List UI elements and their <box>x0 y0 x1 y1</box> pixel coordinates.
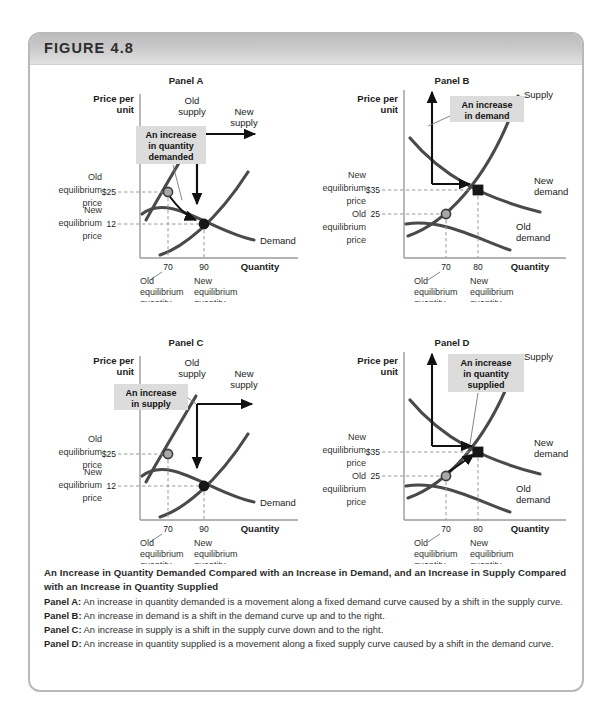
panel-d-new-price-label-1: New <box>348 432 367 442</box>
panel-b-old-demand-label-1: Old <box>516 221 531 232</box>
panel-d-old-demand-label-2: demand <box>516 494 550 505</box>
panel-c-new-supply-label-2: supply <box>230 379 258 390</box>
panel-c-old-qty-label-2: equilibrium <box>140 549 184 559</box>
panel-c-new-qty-label-3: quantity <box>194 560 226 564</box>
panel-d-old-demand-label-1: Old <box>516 483 531 494</box>
panel-d-title: Panel D <box>435 337 470 348</box>
panel-d-x-axis-label: Quantity <box>511 523 550 534</box>
panel-d-old-qty-label-2: equilibrium <box>414 549 458 559</box>
panel-b-callout-line-2: in demand <box>464 111 509 121</box>
caption-panel-d-text: An increase in quantity supplied is a mo… <box>82 638 554 649</box>
panel-b-y-axis-label: Price per <box>357 93 398 104</box>
panel-c-new-qty-label-2: equilibrium <box>194 549 238 559</box>
panel-b-old-price-label-1: Old <box>352 209 366 219</box>
panel-b-new-equilibrium-point <box>473 185 482 194</box>
panel-a-new-qty-label-1: New <box>194 276 213 286</box>
panel-a-callout-line-2: in quantity <box>148 141 194 151</box>
panel-a-title: Panel A <box>169 75 204 86</box>
panel-b-old-qty-label-2: equilibrium <box>414 287 458 297</box>
panel-b-old-qty-label-3: quantity <box>414 298 446 302</box>
caption-panel-a-label: Panel A: <box>44 596 81 607</box>
panel-b-supply-label: Supply <box>524 89 553 100</box>
panel-c-old-equilibrium-point <box>163 449 172 458</box>
panel-d-new-qty-tick: 80 <box>473 524 483 534</box>
panel-d-new-price-label-2: equilibrium <box>322 445 366 455</box>
figure-header-bar: FIGURE 4.8 <box>30 34 582 65</box>
caption-title: An Increase in Quantity Demanded Compare… <box>44 566 568 593</box>
panel-c-new-supply-label-1: New <box>234 368 253 379</box>
panel-b-old-qty-leader <box>428 272 440 280</box>
figure-number-label: FIGURE 4.8 <box>44 40 134 56</box>
panel-b-new-demand-curve <box>410 138 540 212</box>
panel-d-new-equilibrium-point <box>473 447 482 456</box>
panel-b-new-qty-tick: 80 <box>473 262 483 272</box>
panel-c-y-axis-label-2: unit <box>117 366 135 377</box>
panel-b-old-qty-tick: 70 <box>441 262 451 272</box>
panel-c-callout-line-1: An increase <box>125 388 176 398</box>
panel-a-old-qty-tick: 70 <box>163 262 173 272</box>
panel-b-new-price-label-3: price <box>346 196 366 206</box>
panel-b-old-demand-label-2: demand <box>516 232 550 243</box>
panel-d-old-price-tick: 25 <box>371 471 381 481</box>
panel-a-callout-line-3: demanded <box>148 152 193 162</box>
panel-a-old-equilibrium-point <box>163 187 172 196</box>
panel-b-new-demand-label-1: New <box>534 175 553 186</box>
panel-c-old-supply-label-1: Old <box>185 357 200 368</box>
panel-b-new-qty-label-2: equilibrium <box>470 287 514 297</box>
panel-a-old-price-label-2: equilibrium <box>58 185 102 195</box>
caption-panel-b-label: Panel B: <box>44 610 82 621</box>
panel-a-new-price-label-2: equilibrium <box>58 218 102 228</box>
panel-a-old-qty-label-2: equilibrium <box>140 287 184 297</box>
panel-d-supply-label: Supply <box>524 351 553 362</box>
panel-b-old-price-tick: 25 <box>371 209 381 219</box>
panel-a-x-axis-label: Quantity <box>241 261 280 272</box>
panel-d-old-demand-curve <box>406 485 510 512</box>
caption-line-c: Panel C: An increase in supply is a shif… <box>44 623 568 637</box>
panel-a-y-axis-label: Price per <box>93 93 134 104</box>
caption-panel-c-text: An increase in supply is a shift in the … <box>82 624 384 635</box>
figure-container: FIGURE 4.8 Panel A Price per unit Old su… <box>28 32 584 692</box>
caption-line-b: Panel B: An increase in demand is a shif… <box>44 609 568 623</box>
panel-d-old-qty-label-1: Old <box>414 538 428 548</box>
panel-a-old-qty-label-3: quantity <box>140 298 172 302</box>
panel-b-new-price-tick: $35 <box>366 185 380 195</box>
panel-d-new-demand-label-1: New <box>534 437 553 448</box>
panel-c-new-equilibrium-point <box>199 481 208 490</box>
panel-d-old-price-label-2: equilibrium <box>322 484 366 494</box>
panel-c-demand-label: Demand <box>260 497 296 508</box>
panel-b-new-price-label-2: equilibrium <box>322 183 366 193</box>
panel-b-new-demand-label-2: demand <box>534 186 568 197</box>
panel-a-new-qty-tick: 90 <box>199 262 209 272</box>
panel-d-y-axis-label-2: unit <box>381 366 399 377</box>
panel-a-new-supply-label-1: New <box>234 106 253 117</box>
panel-b-new-qty-label-3: quantity <box>470 298 502 302</box>
panel-b-old-equilibrium-point <box>441 209 450 218</box>
figure-caption: An Increase in Quantity Demanded Compare… <box>44 566 568 651</box>
panel-a-new-qty-label-2: equilibrium <box>194 287 238 297</box>
panel-d-new-qty-label-2: equilibrium <box>470 549 514 559</box>
panel-a-callout-line-1: An increase <box>145 130 196 140</box>
panel-c: Panel C Price per unit Old supply New su… <box>36 334 308 564</box>
panel-c-old-price-tick: $25 <box>102 449 116 459</box>
panel-c-old-qty-label-3: quantity <box>140 560 172 564</box>
panel-b-title: Panel B <box>435 75 470 86</box>
panel-a: Panel A Price per unit Old supply New su… <box>36 72 308 302</box>
panel-c-new-price-tick: 12 <box>107 481 117 491</box>
caption-line-a: Panel A: An increase in quantity demande… <box>44 595 568 609</box>
panel-c-y-axis-label: Price per <box>93 355 134 366</box>
panel-c-old-qty-tick: 70 <box>163 524 173 534</box>
panel-a-new-equilibrium-point <box>199 219 208 228</box>
panel-a-callout-leader <box>173 165 182 200</box>
caption-panel-a-text: An increase in quantity demanded is a mo… <box>81 596 563 607</box>
panel-b: Panel B Price per unit Supply New demand… <box>302 72 578 302</box>
panel-a-new-price-label-3: price <box>82 231 102 241</box>
panel-c-old-supply-label-2: supply <box>178 368 206 379</box>
panel-a-old-supply-label-2: supply <box>178 106 206 117</box>
panel-a-y-axis-label-2: unit <box>117 104 135 115</box>
caption-panel-d-label: Panel D: <box>44 638 82 649</box>
panel-c-title: Panel C <box>169 337 204 348</box>
panel-d-old-price-label-3: price <box>346 497 366 507</box>
panel-d-new-qty-label-1: New <box>470 538 489 548</box>
panel-b-x-axis-label: Quantity <box>511 261 550 272</box>
panel-b-y-axis-label-2: unit <box>381 104 399 115</box>
